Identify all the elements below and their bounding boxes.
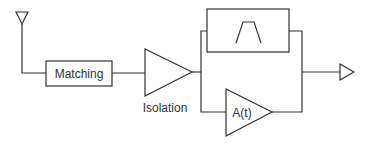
block-diagram: Matching Isolation A(t): [0, 0, 367, 144]
variable-gain-amplifier: A(t): [226, 89, 272, 136]
isolation-label: Isolation: [143, 101, 188, 115]
matching-block: Matching: [46, 61, 112, 86]
matching-label: Matching: [55, 67, 104, 81]
output-arrow-icon: [340, 64, 354, 80]
bandpass-filter-block: [207, 9, 289, 52]
variable-amp-label: A(t): [232, 106, 251, 120]
antenna-icon: [16, 12, 46, 73]
isolation-amplifier: Isolation: [143, 49, 192, 115]
